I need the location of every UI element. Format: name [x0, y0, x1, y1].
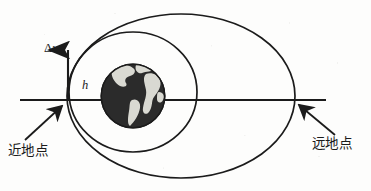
apogee-label: 远地点: [312, 137, 352, 151]
altitude-label: h: [82, 79, 88, 92]
arrow-up-left-icon: [299, 105, 335, 135]
orbit-diagram-svg: [0, 0, 371, 191]
figure-canvas: Δv h 近地点 远地点: [0, 0, 371, 191]
earth-globe-icon: [101, 64, 165, 128]
perigee-label: 近地点: [8, 144, 48, 158]
arrow-up-right-icon: [25, 106, 62, 140]
velocity-symbol: v: [52, 40, 58, 55]
delta-v-label: Δv: [44, 41, 58, 54]
